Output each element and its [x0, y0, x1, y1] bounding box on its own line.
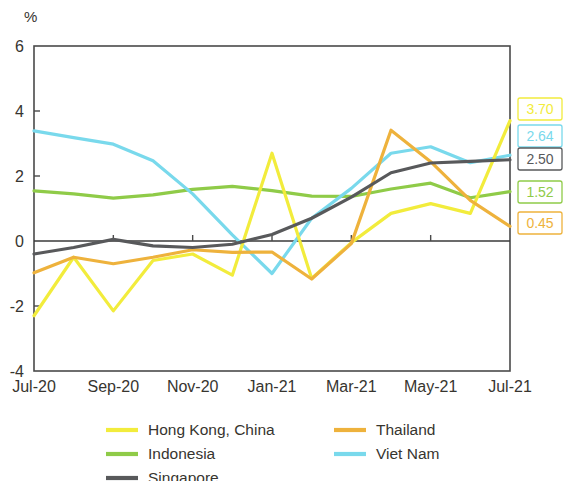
legend-label: Singapore	[148, 469, 219, 481]
x-tick-label: May-21	[404, 378, 457, 395]
line-chart: % 6420-2-4 Jul-20Sep-20Nov-20Jan-21Mar-2…	[0, 0, 566, 481]
chart-legend: Hong Kong, ChinaIndonesiaSingaporeThaila…	[106, 421, 439, 481]
x-tick-label: Mar-21	[326, 378, 377, 395]
x-tick-label: Jul-20	[12, 378, 56, 395]
y-axis: 6420-2-4	[10, 38, 40, 380]
x-tick-label: Jul-21	[488, 378, 532, 395]
end-label-value: 2.50	[526, 151, 553, 167]
series-line-indonesia	[34, 183, 510, 198]
y-tick-label: 2	[15, 168, 24, 185]
x-tick-label: Nov-20	[167, 378, 219, 395]
legend-label: Indonesia	[148, 445, 216, 462]
y-tick-label: 0	[15, 233, 24, 250]
chart-canvas: % 6420-2-4 Jul-20Sep-20Nov-20Jan-21Mar-2…	[0, 0, 566, 481]
legend-label: Viet Nam	[376, 445, 439, 462]
y-tick-label: 6	[15, 38, 24, 55]
legend-label: Hong Kong, China	[148, 421, 275, 438]
plot-frame	[34, 46, 510, 371]
y-tick-label: -2	[10, 298, 24, 315]
data-series-group	[34, 121, 510, 316]
end-value-labels: 3.702.642.501.520.45	[518, 98, 562, 234]
y-tick-label: 4	[15, 103, 24, 120]
x-tick-label: Jan-21	[248, 378, 297, 395]
end-label-value: 1.52	[526, 184, 553, 200]
end-label-value: 3.70	[526, 101, 553, 117]
y-axis-unit-label: %	[24, 8, 37, 25]
end-label-value: 0.45	[526, 215, 553, 231]
x-axis-labels: Jul-20Sep-20Nov-20Jan-21Mar-21May-21Jul-…	[12, 378, 532, 395]
x-tick-label: Sep-20	[88, 378, 140, 395]
end-label-value: 2.64	[526, 128, 553, 144]
legend-label: Thailand	[376, 421, 435, 438]
